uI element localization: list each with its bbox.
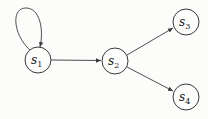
edge-s2-s3 — [127, 28, 173, 55]
edge-s1-s1-self-loop — [16, 8, 42, 50]
node-s1: s1 — [25, 47, 51, 73]
node-s2: s2 — [102, 48, 128, 74]
edge-s1-s2 — [51, 60, 101, 61]
edge-s2-s4 — [127, 67, 173, 91]
node-s4: s4 — [173, 84, 199, 110]
state-diagram: s1 s2 s3 s4 — [0, 0, 208, 119]
node-s3: s3 — [173, 9, 199, 35]
